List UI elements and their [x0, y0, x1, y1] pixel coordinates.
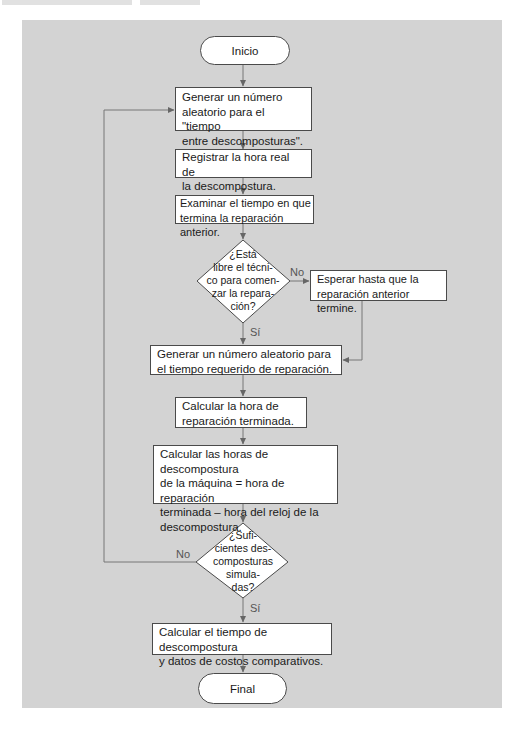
decision-line: co para comen- — [203, 274, 283, 287]
step-line: la descompostura. — [182, 179, 305, 194]
decision-text-technician-free: ¿Está libre el técni- co para comen- zar… — [203, 248, 283, 313]
decision-line: libre el técni- — [203, 261, 283, 274]
decision-yes-label: Sí — [250, 602, 260, 614]
decision-line: ¿Está — [203, 248, 283, 261]
step-record-breakdown-time: Registrar la hora real de la descompostu… — [175, 149, 312, 178]
step-line: y datos de costos comparativos. — [159, 654, 325, 669]
decision-no-label: No — [290, 266, 304, 278]
step-line: Generar un número aleatorio para — [157, 347, 335, 362]
step-calc-comparative-costs: Calcular el tiempo de descompostura y da… — [152, 623, 332, 655]
step-calc-finish-time: Calcular la hora de reparación terminada… — [175, 397, 307, 428]
step-line: reparación anterior termine. — [317, 287, 440, 316]
start-label: Inicio — [232, 45, 259, 57]
decision-line: das? — [207, 581, 279, 594]
step-line: terminada – hora del reloj de la — [160, 505, 331, 520]
step-line: aleatorio para el "tiempo — [182, 105, 305, 134]
step-line: Calcular el tiempo de descompostura — [159, 625, 325, 654]
end-label: Final — [230, 683, 255, 695]
step-wait-previous-repair: Esperar hasta que la reparación anterior… — [310, 270, 447, 301]
step-line: Esperar hasta que la — [317, 272, 440, 287]
step-line: Calcular las horas de descompostura — [160, 447, 331, 476]
step-line: Registrar la hora real de — [182, 150, 305, 179]
decision-line: cientes des- — [207, 542, 279, 555]
step-generate-breakdown-time: Generar un número aleatorio para el "tie… — [175, 87, 312, 131]
step-line: entre descomposturas". — [182, 134, 305, 149]
step-line: Examinar el tiempo en que — [180, 196, 311, 211]
step-examine-repair-end: Examinar el tiempo en que termina la rep… — [175, 195, 314, 224]
step-calc-downtime-hours: Calcular las horas de descompostura de l… — [153, 445, 338, 504]
end-terminal: Final — [198, 673, 287, 704]
decision-line: zar la repara- — [203, 287, 283, 300]
decision-text-enough-breakdowns: ¿Sufi- cientes des- composturas simula- … — [207, 529, 279, 594]
step-line: reparación terminada. — [182, 414, 300, 429]
step-line: Calcular la hora de — [182, 399, 300, 414]
step-line: el tiempo requerido de reparación. — [157, 362, 335, 377]
decision-line: ción? — [203, 300, 283, 313]
decision-no-label: No — [176, 548, 190, 560]
step-line: termina la reparación anterior. — [180, 211, 311, 240]
step-line: Generar un número — [182, 90, 305, 105]
step-line: de la máquina = hora de reparación — [160, 476, 331, 505]
decision-yes-label: Sí — [250, 326, 260, 338]
decision-line: ¿Sufi- — [207, 529, 279, 542]
start-terminal: Inicio — [200, 36, 290, 65]
decision-line: simula- — [207, 568, 279, 581]
step-generate-repair-time: Generar un número aleatorio para el tiem… — [150, 345, 342, 375]
decision-line: composturas — [207, 555, 279, 568]
